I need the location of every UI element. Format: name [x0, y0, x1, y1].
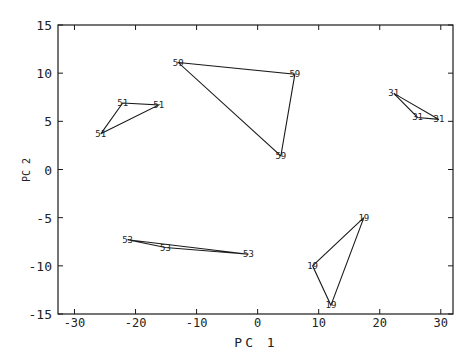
- x-tick-label: 10: [311, 316, 325, 330]
- x-tick-label: 0: [254, 316, 261, 330]
- plot-frame: [58, 25, 453, 314]
- y-tick-label: -5: [36, 211, 52, 226]
- point-label: 51: [153, 100, 164, 110]
- point-label: 31: [388, 88, 399, 98]
- x-tick-label: 30: [434, 316, 448, 330]
- x-tick-label: -20: [125, 316, 147, 330]
- y-tick-label: 10: [36, 66, 52, 81]
- point-label: 59: [289, 69, 300, 79]
- y-axis-label: PC 2: [21, 158, 32, 182]
- y-axis-ticks: -15-10-5051015: [29, 18, 453, 322]
- point-label: 53: [243, 249, 254, 259]
- point-label: 19: [358, 213, 369, 223]
- point-label: 59: [173, 58, 184, 68]
- data-groups: 515151595959313131535353191919: [95, 58, 444, 311]
- point-label: 19: [325, 300, 336, 310]
- point-label: 59: [275, 151, 286, 161]
- group-59: 595959: [173, 58, 300, 161]
- y-tick-label: -15: [29, 307, 52, 322]
- point-label: 19: [307, 261, 318, 271]
- group-51: 515151: [95, 98, 164, 139]
- y-tick-label: -10: [29, 259, 52, 274]
- point-label: 53: [122, 235, 133, 245]
- y-tick-label: 15: [36, 18, 52, 33]
- point-label: 51: [95, 129, 106, 139]
- point-label: 53: [160, 243, 171, 253]
- point-label: 51: [117, 98, 128, 108]
- y-tick-label: 0: [44, 163, 52, 178]
- group-31: 313131: [388, 88, 444, 124]
- group-53: 535353: [122, 235, 254, 259]
- group-triangle: [128, 240, 249, 254]
- group-triangle: [178, 63, 295, 156]
- y-tick-label: 5: [44, 114, 52, 129]
- x-tick-label: 20: [373, 316, 387, 330]
- x-tick-label: -30: [64, 316, 86, 330]
- point-label: 31: [412, 112, 423, 122]
- point-label: 31: [434, 114, 445, 124]
- group-triangle: [101, 103, 159, 134]
- pca-scatter-chart: -15-10-5051015 -30-20-100102030 51515159…: [0, 0, 473, 359]
- x-tick-label: -10: [186, 316, 208, 330]
- group-19: 191919: [307, 213, 369, 311]
- group-triangle: [313, 218, 364, 306]
- x-axis-label: PC 1: [234, 335, 277, 350]
